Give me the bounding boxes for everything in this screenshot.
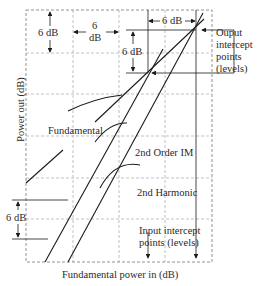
x-axis-label: Fundamental power in (dB) xyxy=(62,269,178,281)
label-2nd-harmonic: 2nd Harmonic xyxy=(137,187,197,199)
output-intercept-label-1: Ouput xyxy=(216,27,242,39)
label-bottom-left-6db: 6 dB xyxy=(6,212,26,224)
output-intercept-label-2: intercept xyxy=(216,39,253,51)
label-top-6-unit: dB xyxy=(89,32,101,44)
input-intercept-label-2: points (levels) xyxy=(139,237,199,249)
dimension-arrows xyxy=(12,12,195,239)
label-2nd-order-im: 2nd Order IM xyxy=(135,147,193,159)
y-axis-label: Power out (dB) xyxy=(15,60,26,160)
label-top-6-num: 6 xyxy=(92,20,97,32)
output-intercept-label-4: (levels) xyxy=(216,63,248,75)
label-mid-6db: 6 dB xyxy=(122,46,142,58)
label-fundamental: Fundamental xyxy=(48,125,103,137)
label-top-right-6db: 6 dB xyxy=(162,15,182,27)
label-top-left-6db: 6 dB xyxy=(38,27,58,39)
intercept-drop-lines xyxy=(148,10,196,258)
input-intercept-label-1: Input intercept xyxy=(139,225,201,237)
output-intercept-label-3: points xyxy=(216,51,242,63)
